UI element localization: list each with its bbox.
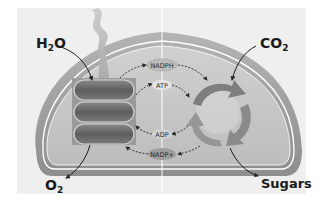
adp-label: ADP [155, 131, 168, 139]
nadph-label: NADPH [150, 62, 173, 70]
chloroplast-diagram: NADPH ATP ADP NADP+ H2O CO2 O2 Sugars [0, 0, 323, 204]
nadp-plus-label: NADP+ [150, 151, 174, 159]
nadph-badge: NADPH [147, 59, 177, 71]
adp-badge: ADP [152, 129, 172, 139]
atp-badge: ATP [152, 80, 172, 90]
nadp-plus-badge: NADP+ [148, 148, 176, 160]
thylakoid-stack [72, 78, 136, 145]
sugars-label: Sugars [261, 176, 312, 191]
atp-label: ATP [156, 82, 168, 90]
